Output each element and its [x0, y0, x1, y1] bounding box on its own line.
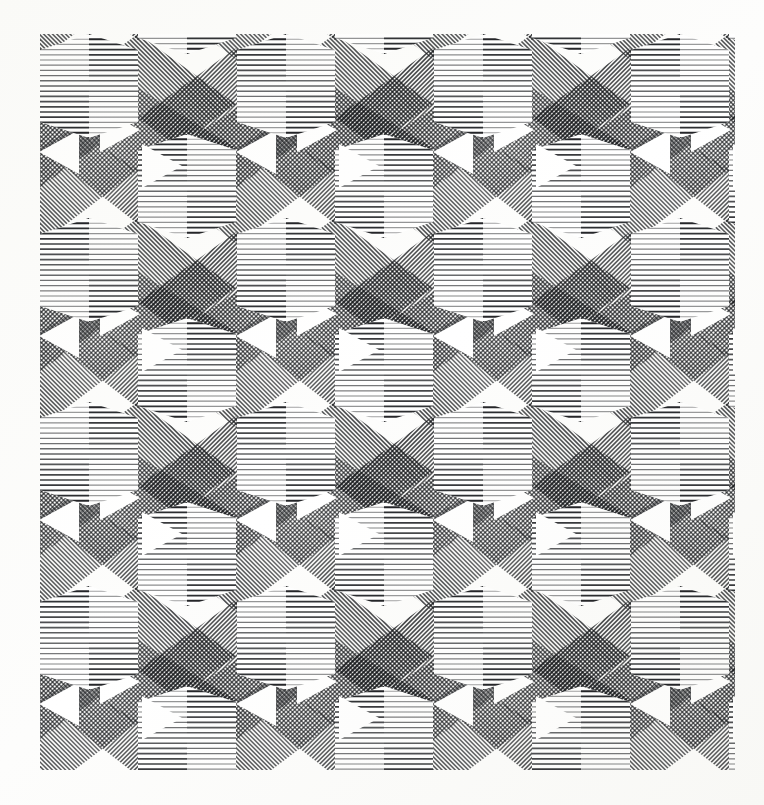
artwork-page: Hatched Geometric Op-Art Print Monochrom… [0, 0, 764, 805]
hatched-pattern-artwork [0, 0, 764, 805]
